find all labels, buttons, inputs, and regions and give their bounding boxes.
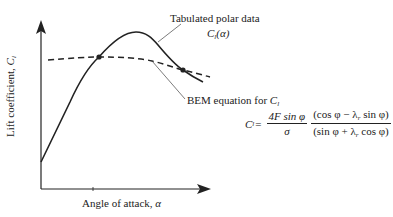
bem-subscript: l bbox=[277, 100, 279, 108]
eq-frac1-denominator: σ bbox=[282, 124, 291, 137]
eq-frac1-numerator: 4F sin φ bbox=[267, 110, 308, 124]
eq-equals: = bbox=[255, 118, 261, 130]
eq-fraction-1: 4F sin φ σ bbox=[267, 110, 308, 137]
y-axis-label-text: Lift coefficient, bbox=[4, 65, 16, 137]
eq-lhs-symbol: C bbox=[245, 118, 252, 130]
polar-annotation-symbol: Cl(α) bbox=[207, 28, 229, 41]
eq-frac2-den-a: (sin φ + λ bbox=[313, 125, 356, 137]
bem-equation: Cl = 4F sin φ σ (cos φ − λr sin φ) (sin … bbox=[245, 108, 393, 139]
bem-leader-line bbox=[152, 61, 185, 99]
polar-data-curve bbox=[41, 32, 203, 162]
eq-fraction-2: (cos φ − λr sin φ) (sin φ + λr cos φ) bbox=[311, 108, 391, 139]
bem-equation-curve bbox=[48, 57, 210, 77]
eq-frac2-numerator: (cos φ − λr sin φ) bbox=[311, 108, 391, 124]
eq-frac2-den-b: cos φ) bbox=[359, 125, 389, 137]
intersection-point-1 bbox=[96, 54, 101, 59]
bem-annotation-text: BEM equation for bbox=[187, 94, 270, 106]
polar-arg: (α) bbox=[216, 27, 229, 39]
y-axis-label: Lift coefficient, Cl bbox=[4, 56, 18, 137]
intersection-point-2 bbox=[180, 67, 185, 72]
eq-frac2-num-a: (cos φ − λ bbox=[313, 108, 357, 120]
eq-frac2-num-b: sin φ) bbox=[360, 108, 388, 120]
polar-annotation-title: Tabulated polar data bbox=[170, 13, 260, 24]
eq-lhs-subscript: l bbox=[252, 120, 254, 128]
x-axis-label: Angle of attack, α bbox=[82, 198, 161, 209]
x-axis-symbol: α bbox=[155, 197, 161, 209]
y-axis-symbol: C bbox=[4, 58, 16, 65]
x-axis-label-text: Angle of attack, bbox=[82, 197, 155, 209]
polar-leader-line bbox=[158, 24, 181, 42]
y-axis-subscript: l bbox=[10, 56, 18, 58]
eq-frac2-denominator: (sin φ + λr cos φ) bbox=[311, 124, 391, 139]
bem-annotation: BEM equation for Cl bbox=[187, 95, 279, 108]
